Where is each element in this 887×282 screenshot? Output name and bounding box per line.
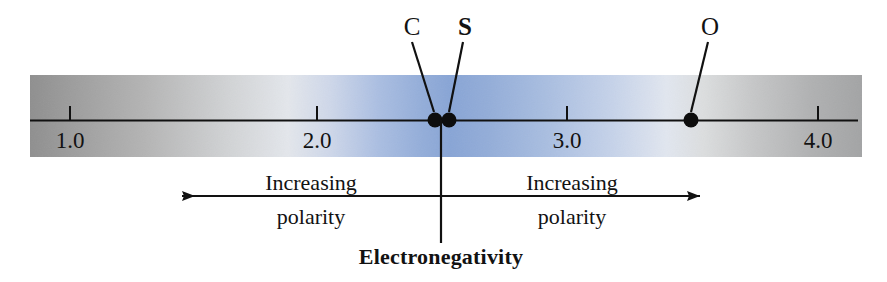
- axis-title-electronegativity: Electronegativity: [359, 246, 523, 268]
- tick-label-1: 1.0: [56, 129, 85, 152]
- increasing-polarity-left-line1: Increasing: [265, 172, 357, 194]
- increasing-polarity-right-line2: polarity: [538, 206, 606, 228]
- tick-label-4: 4.0: [804, 129, 833, 152]
- tick-label-3: 3.0: [553, 129, 582, 152]
- increasing-polarity-right-line1: Increasing: [526, 172, 618, 194]
- increasing-polarity-left-line2: polarity: [277, 206, 345, 228]
- tick-label-2: 2.0: [303, 129, 332, 152]
- element-label-o: O: [701, 14, 719, 39]
- data-point-s: [442, 113, 457, 128]
- figure-graphics: [0, 0, 887, 282]
- data-point-o: [684, 113, 699, 128]
- electronegativity-figure: 1.0 2.0 3.0 4.0 C S O Increasing polarit…: [0, 0, 887, 282]
- element-label-c: C: [404, 14, 421, 39]
- element-label-s: S: [458, 14, 472, 39]
